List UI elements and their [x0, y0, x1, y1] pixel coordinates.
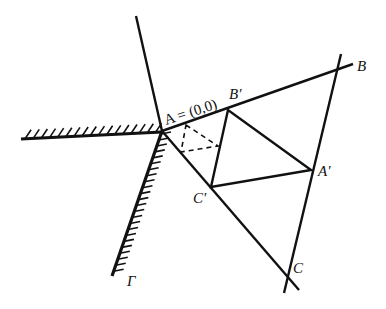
label-b: B: [357, 58, 366, 74]
label-a-prime: A′: [317, 163, 331, 179]
label-a-origin: A = (0,0): [162, 96, 219, 129]
label-gamma: Γ: [126, 273, 137, 289]
geometry-diagram: A = (0,0) B C A′ B′ C′ Γ: [0, 0, 386, 309]
side-ac-extended: [162, 131, 299, 290]
upper-ray: [136, 16, 162, 131]
wall-gamma: [112, 131, 162, 276]
dashed-triangle: [181, 125, 218, 152]
label-c: C: [293, 260, 304, 276]
label-b-prime: B′: [229, 86, 242, 102]
inner-triangle: [211, 110, 311, 187]
label-c-prime: C′: [193, 190, 207, 206]
